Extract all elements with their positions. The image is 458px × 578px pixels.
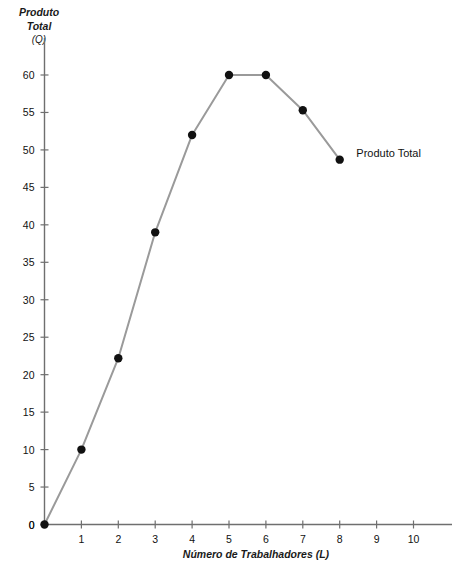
y-axis-tick-label: 45 (9, 181, 35, 193)
x-axis-tick-label: 7 (293, 533, 313, 545)
data-point (262, 71, 270, 79)
x-axis-tick-label: 10 (404, 533, 424, 545)
series-line-produto-total (45, 75, 340, 525)
data-point (188, 131, 196, 139)
data-point (40, 520, 48, 528)
x-axis-tick-label: 2 (108, 533, 128, 545)
x-axis-tick-label: 3 (145, 533, 165, 545)
data-point (77, 445, 85, 453)
y-axis-tick-label: 40 (9, 219, 35, 231)
data-point (225, 71, 233, 79)
x-axis-tick-label: 4 (182, 533, 202, 545)
y-axis-tick-label: 60 (9, 69, 35, 81)
data-point (336, 155, 344, 163)
series-markers-produto-total (40, 71, 344, 529)
origin-label: 0 (9, 519, 35, 531)
y-axis-tick-label: 10 (9, 444, 35, 456)
y-axis-tick-label: 50 (9, 144, 35, 156)
plot-area (0, 0, 458, 578)
y-axis-tick-label: 5 (9, 481, 35, 493)
x-axis-tick-label: 1 (71, 533, 91, 545)
y-axis-tick-label: 55 (9, 106, 35, 118)
y-axis-tick-label: 25 (9, 331, 35, 343)
y-axis-tick-label: 35 (9, 256, 35, 268)
y-axis-tick-label: 30 (9, 294, 35, 306)
x-axis-tick-label: 5 (219, 533, 239, 545)
x-axis-tick-label: 9 (367, 533, 387, 545)
x-axis-tick-label: 8 (330, 533, 350, 545)
data-point (114, 354, 122, 362)
axes (45, 38, 453, 525)
data-point (151, 228, 159, 236)
y-axis-tick-label: 20 (9, 369, 35, 381)
series-label-produto-total: Produto Total (356, 147, 421, 159)
y-axis-tick-label: 15 (9, 406, 35, 418)
total-product-chart: ProdutoTotal(Q) Número de Trabalhadores … (0, 0, 458, 578)
data-point (299, 106, 307, 114)
x-axis-tick-label: 6 (256, 533, 276, 545)
